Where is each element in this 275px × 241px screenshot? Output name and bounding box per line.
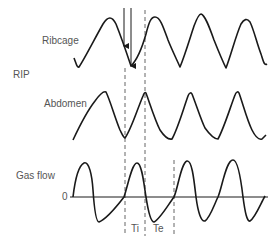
abdomen-label: Abdomen (44, 99, 87, 109)
abdomen-trace (73, 92, 266, 140)
ribcage-label: Ribcage (42, 36, 79, 46)
ti-label: Ti (131, 224, 139, 234)
rip-label: RIP (13, 70, 30, 80)
gas-flow-label: Gas flow (16, 171, 55, 181)
gas-flow-trace (73, 160, 265, 222)
te-label: Te (153, 224, 164, 234)
zero-label: 0 (62, 192, 68, 202)
ribcage-trace (74, 14, 267, 68)
